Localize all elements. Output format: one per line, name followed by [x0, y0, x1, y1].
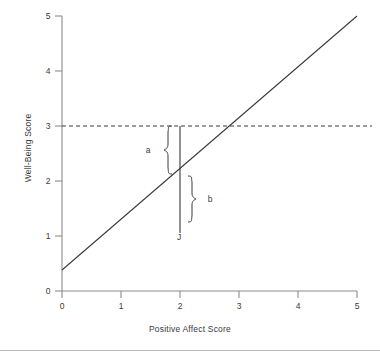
- y-tick-label-2: 2: [40, 176, 56, 186]
- x-axis-ticks: [62, 291, 357, 298]
- y-axis-title-wrapper: Well-Being Score: [23, 58, 37, 238]
- y-axis-title: Well-Being Score: [23, 58, 33, 238]
- x-tick-label-0: 0: [54, 301, 70, 311]
- annotation-label-a: a: [141, 145, 155, 155]
- x-tick-label-3: 3: [231, 301, 247, 311]
- y-tick-label-1: 1: [40, 231, 56, 241]
- x-tick-label-4: 4: [290, 301, 306, 311]
- x-tick-label-1: 1: [113, 301, 129, 311]
- x-tick-label-2: 2: [172, 301, 188, 311]
- y-tick-label-0: 0: [40, 286, 56, 296]
- regression-line: [62, 16, 357, 270]
- x-axis-title: Positive Affect Score: [0, 324, 380, 334]
- brace-b: [188, 176, 196, 222]
- y-tick-label-4: 4: [40, 66, 56, 76]
- annotation-label-b: b: [203, 194, 217, 204]
- annotation-label-j: J: [172, 232, 186, 242]
- y-tick-label-5: 5: [40, 11, 56, 21]
- y-axis-ticks: [55, 16, 62, 291]
- brace-a: [164, 126, 172, 174]
- chart-figure: 0 1 2 3 4 5 0 1 2 3 4 5 a b J Positive A…: [0, 0, 380, 362]
- x-tick-label-5: 5: [349, 301, 365, 311]
- bottom-divider: [0, 350, 380, 351]
- y-tick-label-3: 3: [40, 121, 56, 131]
